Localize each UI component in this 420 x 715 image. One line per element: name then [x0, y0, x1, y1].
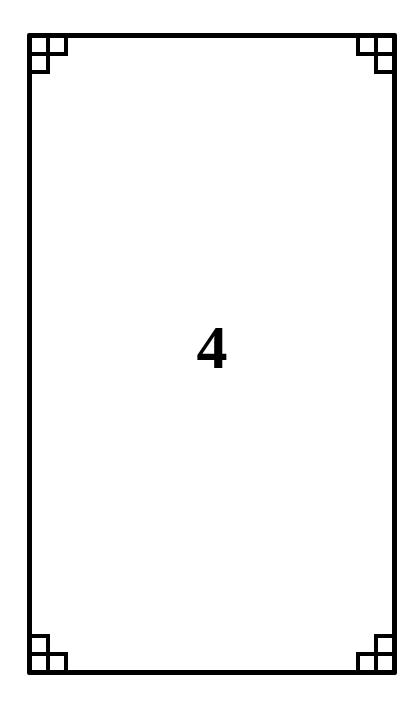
corner-ornament-bottom-right: [352, 630, 392, 670]
card-number: 4: [32, 316, 392, 378]
corner-ornament-top-right: [352, 38, 392, 78]
corner-ornament-top-left: [32, 38, 72, 78]
card: 4: [27, 33, 397, 675]
corner-ornament-bottom-left: [32, 630, 72, 670]
